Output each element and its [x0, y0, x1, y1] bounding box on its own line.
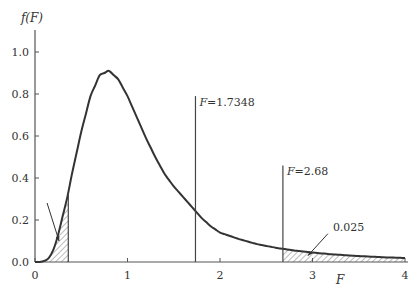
x-tick-label: 3	[309, 269, 316, 282]
f-distribution-chart: 012340.00.20.40.60.81.0f(F)F F=1.7348F=2…	[0, 0, 418, 293]
y-tick-label: 0.8	[12, 88, 30, 101]
y-tick-label: 0.2	[12, 214, 30, 227]
vertical-lines	[68, 96, 283, 262]
y-axis-label: f(F)	[20, 11, 43, 25]
x-tick-label: 1	[124, 269, 131, 282]
critical-value-label: F=1.7348	[198, 96, 254, 109]
y-tick-label: 0.0	[12, 256, 30, 269]
y-tick-label: 0.6	[12, 130, 30, 143]
critical-value-label: F=2.68	[286, 165, 328, 178]
y-tick-label: 0.4	[12, 172, 30, 185]
y-tick-label: 1.0	[12, 46, 30, 59]
labels: F=1.7348F=2.680.025	[47, 96, 364, 256]
x-tick-label: 0	[32, 269, 39, 282]
x-axis-label: F	[335, 273, 345, 287]
axes: 012340.00.20.40.60.81.0f(F)F	[12, 11, 409, 287]
x-tick-label: 4	[402, 269, 409, 282]
x-tick-label: 2	[217, 269, 224, 282]
annotation-arrow-1	[47, 203, 59, 241]
tail-area-label: 0.025	[333, 221, 365, 234]
